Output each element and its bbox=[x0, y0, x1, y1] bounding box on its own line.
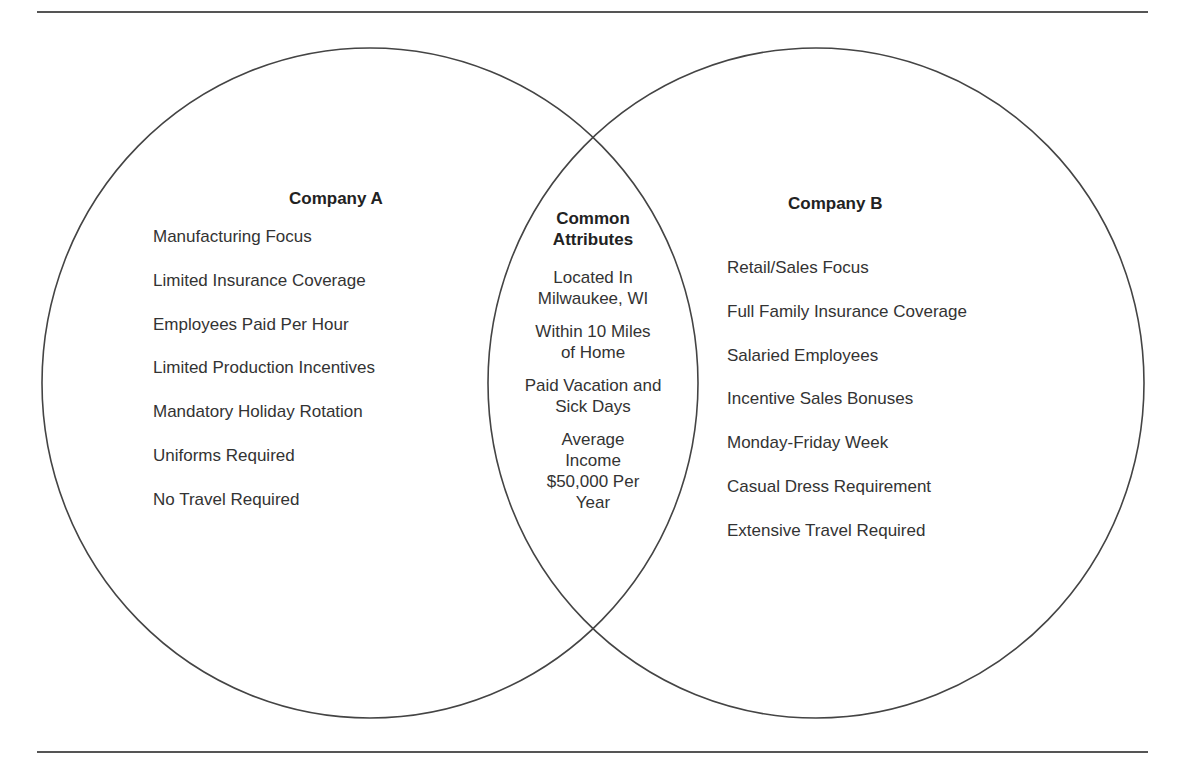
company-a-item: Uniforms Required bbox=[153, 446, 375, 490]
common-item-vacation: Paid Vacation and Sick Days bbox=[512, 375, 674, 417]
company-b-item: Full Family Insurance Coverage bbox=[727, 302, 967, 346]
item-line: Year bbox=[512, 492, 674, 513]
company-a-item: Limited Insurance Coverage bbox=[153, 271, 375, 315]
item-line: Income bbox=[512, 450, 674, 471]
common-item-location: Located In Milwaukee, WI bbox=[512, 267, 674, 309]
company-a-list: Manufacturing Focus Limited Insurance Co… bbox=[153, 227, 375, 534]
company-a-item: Employees Paid Per Hour bbox=[153, 315, 375, 359]
common-item-income: Average Income $50,000 Per Year bbox=[512, 429, 674, 513]
company-a-item: Manufacturing Focus bbox=[153, 227, 375, 271]
item-line: of Home bbox=[512, 342, 674, 363]
heading-line: Common bbox=[512, 208, 674, 229]
company-b-item: Monday-Friday Week bbox=[727, 433, 967, 477]
company-b-item: Retail/Sales Focus bbox=[727, 258, 967, 302]
heading-line: Attributes bbox=[512, 229, 674, 250]
company-b-item: Extensive Travel Required bbox=[727, 521, 967, 565]
item-line: Paid Vacation and bbox=[512, 375, 674, 396]
company-b-heading: Company B bbox=[788, 194, 882, 214]
common-attributes: Common Attributes Located In Milwaukee, … bbox=[512, 208, 674, 513]
item-line: Sick Days bbox=[512, 396, 674, 417]
item-line: Within 10 Miles bbox=[512, 321, 674, 342]
item-line: $50,000 Per bbox=[512, 471, 674, 492]
company-a-item: Limited Production Incentives bbox=[153, 358, 375, 402]
company-b-item: Salaried Employees bbox=[727, 346, 967, 390]
company-b-item: Incentive Sales Bonuses bbox=[727, 389, 967, 433]
item-line: Milwaukee, WI bbox=[512, 288, 674, 309]
company-b-item: Casual Dress Requirement bbox=[727, 477, 967, 521]
common-attributes-heading: Common Attributes bbox=[512, 208, 674, 250]
company-a-item: Mandatory Holiday Rotation bbox=[153, 402, 375, 446]
company-a-item: No Travel Required bbox=[153, 490, 375, 534]
company-b-list: Retail/Sales Focus Full Family Insurance… bbox=[727, 258, 967, 565]
common-item-distance: Within 10 Miles of Home bbox=[512, 321, 674, 363]
company-a-heading: Company A bbox=[289, 189, 383, 209]
item-line: Located In bbox=[512, 267, 674, 288]
item-line: Average bbox=[512, 429, 674, 450]
